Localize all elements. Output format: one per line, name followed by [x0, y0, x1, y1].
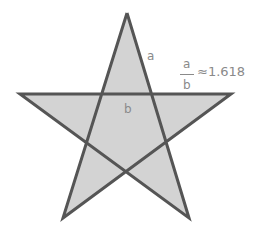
pentagram-diagram: a b a b ≈1.618 — [0, 0, 259, 235]
ratio-denominator: b — [183, 79, 191, 91]
ratio-numerator: a — [183, 58, 190, 70]
segment-a-label: a — [147, 50, 154, 62]
ratio-value: ≈1.618 — [197, 66, 245, 78]
fraction-bar — [180, 74, 194, 75]
segment-b-label: b — [124, 103, 132, 115]
pentagram-star — [0, 0, 259, 235]
